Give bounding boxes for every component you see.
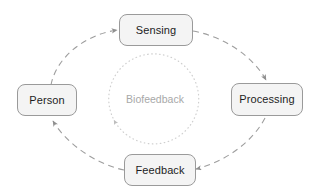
node-person-label: Person: [29, 95, 64, 106]
edge-processing-to-feedback: [196, 118, 265, 169]
edge-feedback-to-person: [53, 121, 124, 170]
node-feedback-label: Feedback: [135, 165, 184, 176]
edge-person-to-sensing: [51, 30, 117, 85]
node-sensing-label: Sensing: [136, 25, 176, 36]
node-person[interactable]: Person: [17, 84, 77, 116]
edge-sensing-to-processing: [193, 31, 266, 80]
node-feedback[interactable]: Feedback: [124, 154, 196, 186]
node-processing-label: Processing: [239, 94, 294, 105]
node-processing[interactable]: Processing: [231, 83, 303, 116]
node-sensing[interactable]: Sensing: [119, 14, 193, 46]
biofeedback-diagram: Person Sensing Processing Feedback Biofe…: [0, 0, 310, 196]
center-label: Biofeedback: [105, 94, 205, 105]
